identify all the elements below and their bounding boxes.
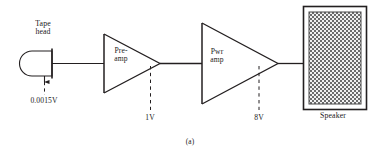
tape-head-label-line2: head xyxy=(35,27,50,36)
preamp-symbol xyxy=(104,34,160,93)
tape-head-symbol xyxy=(20,49,53,79)
preamp-output-voltage-label: 1V xyxy=(133,114,167,122)
figure-caption: (a) xyxy=(161,138,219,146)
speaker-label: Speaker xyxy=(296,112,370,120)
preamp-label-line2: amp xyxy=(114,54,127,63)
speaker-grille-icon xyxy=(309,12,361,104)
preamp-label: Pre- amp xyxy=(101,47,141,63)
tape-head-label: Tape head xyxy=(20,20,66,37)
preamp-triangle-icon xyxy=(104,34,160,93)
tape-head-body-icon xyxy=(20,51,53,76)
pwramp-label-line2: amp xyxy=(210,55,223,64)
pwramp-label: Pwr amp xyxy=(197,48,237,64)
speaker-symbol xyxy=(304,7,367,110)
pwramp-output-voltage-label: 8V xyxy=(242,114,276,122)
figure-container: Tape head 0.0015V Pre- amp Pwr amp 1V 8V… xyxy=(0,0,381,158)
tape-head-voltage-label: 0.0015V xyxy=(11,97,77,105)
